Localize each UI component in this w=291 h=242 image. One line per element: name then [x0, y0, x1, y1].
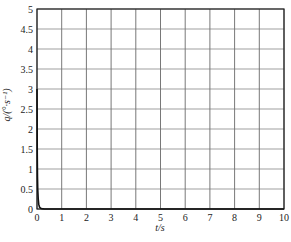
y-tick-label: 4.5 — [21, 24, 34, 35]
y-tick-label: 1 — [28, 164, 33, 175]
x-tick-label: 1 — [59, 212, 64, 223]
x-tick-label: 10 — [279, 212, 289, 223]
grid-lines — [37, 9, 284, 209]
y-tick-label: 3 — [28, 84, 33, 95]
y-tick-label: 1.5 — [21, 144, 34, 155]
y-tick-label: 2 — [28, 124, 33, 135]
y-tick-label: 5 — [28, 4, 33, 15]
y-axis-ticks: 00.511.522.533.544.55 — [21, 4, 34, 215]
x-tick-label: 8 — [232, 212, 237, 223]
y-axis-label: q/(°·s⁻¹) — [1, 88, 13, 122]
x-tick-label: 7 — [207, 212, 212, 223]
y-tick-label: 3.5 — [21, 64, 34, 75]
y-tick-label: 0.5 — [21, 184, 34, 195]
line-chart: 00.511.522.533.544.55 012345678910 t/s q… — [0, 0, 291, 242]
y-tick-label: 2.5 — [21, 104, 34, 115]
x-tick-label: 2 — [84, 212, 89, 223]
x-axis-label: t/s — [155, 222, 165, 233]
x-tick-label: 4 — [133, 212, 138, 223]
x-tick-label: 3 — [109, 212, 114, 223]
x-tick-label: 6 — [183, 212, 188, 223]
y-tick-label: 4 — [28, 44, 33, 55]
x-tick-label: 9 — [257, 212, 262, 223]
x-tick-label: 0 — [35, 212, 40, 223]
y-tick-label: 0 — [28, 204, 33, 215]
